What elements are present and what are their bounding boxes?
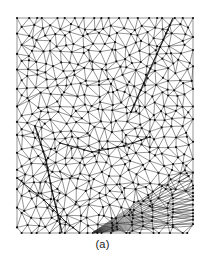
mesh-vertex <box>59 215 61 217</box>
mesh-vertex <box>188 144 190 146</box>
mesh-vertex <box>178 180 180 182</box>
mesh-vertex <box>112 91 114 93</box>
mesh-vertex <box>133 104 135 106</box>
mesh-vertex <box>153 114 155 116</box>
mesh-vertex <box>105 194 107 196</box>
mesh-vertex <box>100 120 102 122</box>
mesh-vertex <box>16 207 18 209</box>
mesh-vertex <box>125 46 127 48</box>
mesh-vertex <box>151 95 153 97</box>
mesh-vertex <box>112 229 114 231</box>
mesh-vertex <box>154 27 156 29</box>
mesh-vertex <box>62 70 64 72</box>
mesh-vertex <box>28 59 30 61</box>
mesh-vertex <box>182 125 184 127</box>
mesh-vertex <box>55 151 57 153</box>
mesh-vertex <box>107 91 109 93</box>
mesh-vertex <box>129 94 131 96</box>
mesh-vertex <box>108 35 110 37</box>
mesh-vertex <box>154 62 156 64</box>
mesh-vertex <box>52 65 54 67</box>
mesh-vertex <box>162 77 164 79</box>
mesh-vertex <box>75 121 77 123</box>
mesh-vertex <box>141 216 143 218</box>
mesh-vertex <box>192 65 194 67</box>
mesh-vertex <box>59 50 61 52</box>
mesh-vertex <box>151 220 153 222</box>
mesh-vertex <box>119 66 121 68</box>
mesh-vertex <box>26 87 28 89</box>
mesh-vertex <box>175 146 177 148</box>
mesh-vertex <box>192 118 194 120</box>
mesh-vertex <box>167 67 169 69</box>
mesh-vertex <box>46 87 48 89</box>
mesh-vertex <box>169 232 171 234</box>
mesh-vertex <box>138 50 140 52</box>
mesh-vertex <box>28 35 30 37</box>
mesh-vertex <box>77 137 79 139</box>
mesh-vertex <box>154 154 156 156</box>
mesh-vertex <box>49 40 51 42</box>
mesh-vertex <box>176 95 178 97</box>
mesh-vertex <box>48 174 50 176</box>
mesh-vertex <box>131 224 133 226</box>
mesh-vertex <box>83 94 85 96</box>
mesh-vertex <box>32 132 34 134</box>
mesh-vertex <box>16 226 18 228</box>
mesh-vertex <box>32 175 34 177</box>
mesh-vertex <box>64 17 66 19</box>
mesh-vertex <box>172 197 174 199</box>
mesh-vertex <box>16 88 18 90</box>
mesh-vertex <box>56 17 58 19</box>
mesh-vertex <box>112 104 114 106</box>
mesh-vertex <box>145 186 147 188</box>
mesh-vertex <box>114 49 116 51</box>
mesh-vertex <box>54 147 56 149</box>
mesh-vertex <box>61 94 63 96</box>
mesh-vertex <box>144 168 146 170</box>
mesh-vertex <box>124 58 126 60</box>
mesh-vertex <box>42 50 44 52</box>
mesh-vertex <box>55 161 57 163</box>
mesh-vertex <box>125 66 127 68</box>
mesh-vertex <box>111 109 113 111</box>
mesh-vertex <box>28 190 30 192</box>
mesh-vertex <box>51 217 53 219</box>
mesh-vertex <box>44 181 46 183</box>
mesh-vertex <box>132 214 134 216</box>
mesh-vertex <box>79 162 81 164</box>
mesh-vertex <box>103 215 105 217</box>
mesh-vertex <box>124 163 126 165</box>
mesh-vertex <box>149 146 151 148</box>
mesh-vertex <box>76 146 78 148</box>
mesh-vertex <box>158 183 160 185</box>
mesh-vertex <box>115 120 117 122</box>
mesh-vertex <box>135 69 137 71</box>
mesh-vertex <box>129 209 131 211</box>
mesh-vertex <box>42 163 44 165</box>
mesh-vertex <box>49 182 51 184</box>
mesh-vertex <box>40 192 42 194</box>
mesh-vertex <box>57 214 59 216</box>
mesh-vertex <box>142 200 144 202</box>
mesh-vertex <box>179 79 181 81</box>
mesh-vertex <box>149 182 151 184</box>
mesh-vertex <box>35 39 37 41</box>
mesh-vertex <box>167 147 169 149</box>
mesh-vertex <box>77 178 79 180</box>
mesh-vertex <box>86 232 88 234</box>
mesh-vertex <box>83 46 85 48</box>
mesh-vertex <box>120 102 122 104</box>
mesh-vertex <box>46 207 48 209</box>
mesh-vertex <box>116 198 118 200</box>
mesh-vertex <box>76 95 78 97</box>
mesh-vertex <box>56 100 58 102</box>
mesh-vertex <box>102 28 104 30</box>
mesh-vertex <box>16 68 18 70</box>
mesh-vertex <box>31 113 33 115</box>
mesh-vertex <box>172 203 174 205</box>
mesh-vertex <box>161 58 163 60</box>
mesh-vertex <box>192 171 194 173</box>
mesh-vertex <box>130 211 132 213</box>
mesh-vertex <box>72 43 74 45</box>
